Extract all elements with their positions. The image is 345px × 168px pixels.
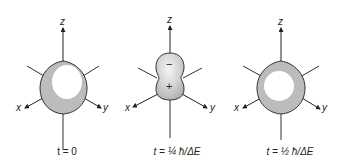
x-axis-arrow (243, 98, 261, 108)
y-axis-arrow (302, 98, 320, 109)
z-label: z (60, 16, 65, 27)
panel-t-half (243, 28, 320, 140)
caption-t-quarter: t = ¼ ħ/ΔE (153, 146, 200, 157)
panel-t0 (25, 28, 101, 150)
y-axis-arrow (84, 98, 101, 108)
x-axis-arrow (133, 94, 158, 107)
x-label: x (234, 102, 239, 113)
x-axis-arrow (25, 98, 43, 108)
highlight (52, 65, 82, 99)
z-label: z (278, 16, 283, 27)
x-label: x (16, 102, 21, 113)
caption-t0: t = 0 (57, 146, 77, 157)
z-label: z (167, 14, 172, 25)
y-label: y (322, 102, 327, 113)
orbital-diagram (0, 0, 345, 168)
plus-sign: + (166, 80, 172, 92)
y-label: y (103, 102, 108, 113)
minus-sign: − (166, 58, 172, 70)
highlight (264, 71, 294, 101)
y-axis-arrow (182, 94, 207, 108)
x-label: x (125, 102, 130, 113)
caption-t-half: t = ½ ħ/ΔE (266, 146, 313, 157)
y-label: y (210, 102, 215, 113)
